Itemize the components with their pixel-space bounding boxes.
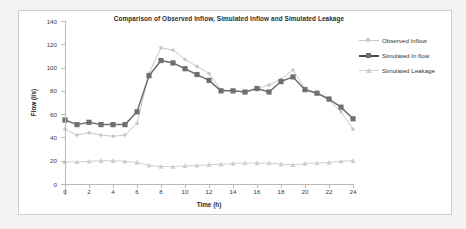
y-tick	[61, 114, 66, 115]
x-tick-label: 6	[127, 188, 147, 195]
x-tick-label: 24	[343, 188, 363, 195]
x-tick-label: 0	[55, 188, 75, 195]
x-tick-label: 16	[247, 188, 267, 195]
x-axis-title: Time (h)	[149, 201, 269, 208]
legend-item-simulated-inflow[interactable]: Simulated In flow	[359, 48, 451, 63]
chart-legend: Observed Inflow Simulated In flow Simula…	[359, 33, 451, 78]
legend-label: Simulated In flow	[382, 52, 429, 59]
y-tick	[61, 161, 66, 162]
legend-marker-diamond-icon	[359, 36, 379, 45]
y-tick-label: 20	[19, 157, 57, 164]
legend-marker-square-icon	[359, 51, 379, 60]
legend-item-observed-inflow[interactable]: Observed Inflow	[359, 33, 451, 48]
x-tick-label: 22	[319, 188, 339, 195]
legend-item-simulated-leakage[interactable]: Simulated Leakage	[359, 63, 451, 78]
y-tick	[61, 68, 66, 69]
y-tick-label: 140	[19, 18, 57, 25]
x-tick-label: 2	[79, 188, 99, 195]
chart-frame: Comparison of Observed Inflow, Simulated…	[18, 10, 452, 215]
x-tick-label: 20	[295, 188, 315, 195]
y-tick	[61, 91, 66, 92]
legend-marker-triangle-icon	[359, 66, 379, 75]
y-axis-line	[65, 21, 66, 195]
y-tick	[61, 137, 66, 138]
legend-label: Simulated Leakage	[382, 67, 435, 74]
y-tick	[61, 44, 66, 45]
series-simulated-in-flow	[62, 58, 355, 127]
y-tick-label: 80	[19, 87, 57, 94]
plot-area: Comparison of Observed Inflow, Simulated…	[19, 11, 453, 216]
x-tick-label: 8	[151, 188, 171, 195]
x-tick-label: 10	[175, 188, 195, 195]
chart-title: Comparison of Observed Inflow, Simulated…	[79, 15, 379, 22]
y-tick-label: 120	[19, 41, 57, 48]
x-tick-label: 18	[271, 188, 291, 195]
y-tick-label: 40	[19, 134, 57, 141]
y-tick-label: 0	[19, 181, 57, 188]
x-tick-label: 12	[199, 188, 219, 195]
x-tick-label: 14	[223, 188, 243, 195]
y-tick-label: 60	[19, 111, 57, 118]
legend-label: Observed Inflow	[382, 37, 427, 44]
x-tick-label: 4	[103, 188, 123, 195]
y-tick-label: 100	[19, 64, 57, 71]
chart-page: Comparison of Observed Inflow, Simulated…	[0, 0, 466, 229]
y-tick	[61, 21, 66, 22]
series-simulated-leakage	[62, 158, 355, 169]
